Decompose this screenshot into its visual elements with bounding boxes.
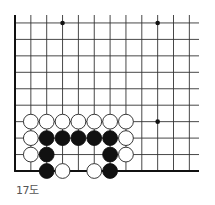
white-stone	[23, 114, 38, 129]
white-stone	[87, 164, 102, 179]
black-stone	[39, 164, 54, 179]
white-stone	[87, 114, 102, 129]
black-stone	[103, 147, 118, 162]
white-stone	[119, 147, 134, 162]
black-stone	[87, 131, 102, 146]
white-stone	[55, 164, 70, 179]
star-point	[60, 21, 65, 26]
black-stone	[55, 131, 70, 146]
white-stone	[23, 147, 38, 162]
black-stone	[103, 164, 118, 179]
star-point	[155, 21, 160, 26]
white-stone	[119, 114, 134, 129]
white-stone	[55, 114, 70, 129]
white-stone	[23, 131, 38, 146]
diagram-caption: 17도	[16, 181, 39, 197]
white-stone	[119, 131, 134, 146]
black-stone	[39, 131, 54, 146]
white-stone	[71, 114, 86, 129]
black-stone	[71, 131, 86, 146]
black-stone	[39, 147, 54, 162]
white-stone	[39, 114, 54, 129]
black-stone	[103, 131, 118, 146]
star-point	[155, 119, 160, 124]
white-stone	[103, 114, 118, 129]
go-board-diagram	[0, 0, 215, 205]
